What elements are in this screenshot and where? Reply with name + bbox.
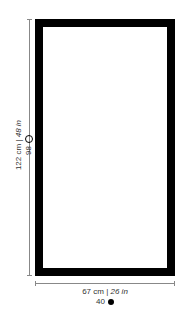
height-in: 48 in	[14, 120, 23, 137]
height-separator: |	[14, 140, 23, 142]
ring-icon	[25, 135, 33, 143]
width-separator: |	[106, 287, 108, 296]
width-label: 67 cm | 26 in 40	[35, 287, 175, 307]
frame-rectangle	[35, 19, 175, 276]
width-right-tick	[174, 281, 175, 286]
height-bottom-tick	[27, 275, 32, 276]
width-dimension-line	[35, 283, 175, 284]
width-in: 26 in	[110, 287, 127, 296]
height-label: 122 cm | 48 in 98	[14, 90, 34, 200]
height-number: 98	[24, 146, 34, 155]
dot-icon	[108, 299, 114, 305]
width-cm: 67 cm	[82, 287, 104, 296]
width-left-tick	[35, 281, 36, 286]
width-number: 40	[96, 297, 105, 307]
height-top-tick	[27, 19, 32, 20]
height-cm: 122 cm	[14, 144, 23, 170]
